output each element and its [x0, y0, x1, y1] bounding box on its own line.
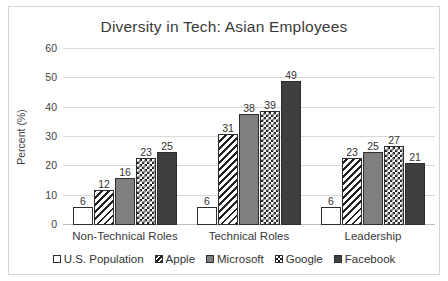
bar: 6	[73, 207, 93, 225]
y-axis-label: Percent (%)	[15, 49, 29, 225]
bar: 25	[157, 152, 177, 225]
bar-value-label: 21	[409, 151, 421, 163]
bar: 6	[321, 207, 341, 225]
chart-frame: Diversity in Tech: Asian Employees Perce…	[8, 6, 440, 275]
legend-item[interactable]: Apple	[155, 253, 195, 265]
y-tick-label: 60	[45, 42, 57, 54]
bar: 21	[405, 163, 425, 225]
bar-value-label: 23	[140, 146, 152, 158]
bar-value-label: 27	[388, 134, 400, 146]
bar-value-label: 6	[80, 195, 86, 207]
legend-item[interactable]: U.S. Population	[53, 253, 144, 265]
legend-swatch-icon	[53, 255, 61, 263]
bar-value-label: 16	[119, 166, 131, 178]
legend-swatch-icon	[334, 255, 342, 263]
bar: 23	[342, 158, 362, 225]
legend-item-label: Facebook	[345, 253, 396, 265]
bar-value-label: 6	[328, 195, 334, 207]
legend-item-label: Google	[286, 253, 323, 265]
bar-value-label: 6	[204, 195, 210, 207]
bar-value-label: 31	[222, 122, 234, 134]
legend-swatch-icon	[155, 255, 163, 263]
bar-value-label: 23	[346, 146, 358, 158]
legend-swatch-icon	[206, 255, 214, 263]
x-tick-label: Non-Technical Roles	[72, 230, 177, 242]
x-tick-label: Leadership	[345, 230, 402, 242]
plot-area: 0102030405060 61216232563138394962325272…	[63, 49, 435, 225]
gridline: 60	[63, 48, 435, 49]
bar: 27	[384, 146, 404, 225]
bar: 16	[115, 178, 135, 225]
y-tick-label: 40	[45, 101, 57, 113]
bar: 38	[239, 114, 259, 225]
x-tick-label: Technical Roles	[209, 230, 290, 242]
y-tick-label: 50	[45, 71, 57, 83]
y-tick-label: 30	[45, 130, 57, 142]
y-tick-label: 10	[45, 189, 57, 201]
bar: 25	[363, 152, 383, 225]
bar: 49	[281, 81, 301, 225]
bar-value-label: 38	[243, 102, 255, 114]
legend-item[interactable]: Microsoft	[206, 253, 264, 265]
bar-value-label: 49	[285, 69, 297, 81]
bar: 39	[260, 111, 280, 225]
legend-swatch-icon	[275, 255, 283, 263]
bar: 6	[197, 207, 217, 225]
bar-value-label: 25	[161, 140, 173, 152]
bar-value-label: 39	[264, 99, 276, 111]
bar: 12	[94, 190, 114, 225]
legend-item[interactable]: Google	[275, 253, 323, 265]
chart-legend: U.S. PopulationAppleMicrosoftGoogleFaceb…	[9, 253, 439, 265]
y-tick-label: 20	[45, 159, 57, 171]
bar: 23	[136, 158, 156, 225]
legend-item-label: Microsoft	[217, 253, 264, 265]
legend-item[interactable]: Facebook	[334, 253, 396, 265]
chart-title: Diversity in Tech: Asian Employees	[9, 18, 439, 36]
bar-value-label: 12	[98, 178, 110, 190]
bar-value-label: 25	[367, 140, 379, 152]
chart-screenshot: Diversity in Tech: Asian Employees Perce…	[0, 0, 448, 281]
bar: 31	[218, 134, 238, 225]
gridline: 50	[63, 77, 435, 78]
legend-item-label: U.S. Population	[64, 253, 144, 265]
y-tick-label: 0	[51, 218, 57, 230]
legend-item-label: Apple	[166, 253, 195, 265]
